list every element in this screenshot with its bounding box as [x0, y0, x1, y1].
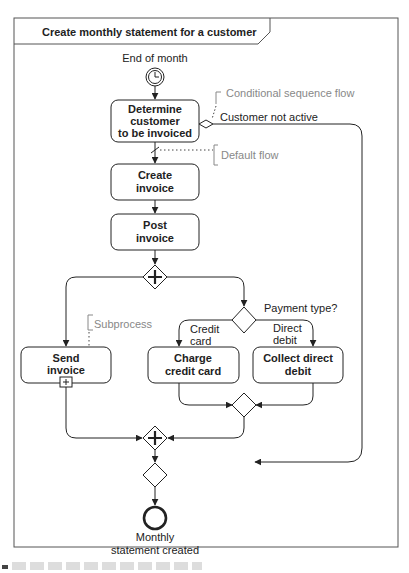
timer-clock-icon — [146, 68, 164, 86]
svg-text:Send: Send — [53, 352, 80, 364]
bpmn-diagram: Create monthly statement for a customer … — [0, 0, 409, 573]
end-event-label-2: statement created — [111, 544, 199, 556]
annotation-conditional: Conditional sequence flow — [226, 87, 354, 99]
end-event-label: Monthly — [136, 531, 175, 543]
customer-not-active-label: Customer not active — [220, 111, 318, 123]
credit-card-flow-label: Credit — [190, 323, 219, 335]
exclusive-gateway-payment-type[interactable] — [232, 307, 256, 333]
task-charge-credit-card[interactable]: Charge credit card — [148, 347, 239, 383]
figure-caption-illegible — [12, 562, 202, 570]
svg-text:Charge: Charge — [174, 352, 212, 364]
end-event[interactable] — [144, 507, 166, 529]
svg-text:invoice: invoice — [136, 182, 174, 194]
svg-text:invoice: invoice — [47, 364, 85, 376]
svg-text:customer: customer — [130, 115, 180, 127]
svg-text:Create: Create — [138, 169, 172, 181]
svg-text:invoice: invoice — [136, 232, 174, 244]
subprocess-send-invoice[interactable]: Send invoice — [21, 347, 111, 387]
svg-text:Determine: Determine — [128, 103, 182, 115]
svg-text:Collect direct: Collect direct — [263, 352, 333, 364]
conditional-flow-diamond — [199, 120, 213, 128]
start-event-label: End of month — [122, 52, 187, 64]
parallel-gateway-split[interactable] — [143, 265, 167, 289]
direct-debit-flow-label: Direct — [273, 322, 302, 334]
svg-text:to be invoiced: to be invoiced — [118, 127, 192, 139]
exclusive-gateway-merge[interactable] — [143, 463, 167, 487]
caption-marker — [2, 565, 8, 569]
task-create-invoice[interactable]: Create invoice — [111, 164, 199, 200]
parallel-gateway-join[interactable] — [143, 426, 167, 450]
diagram-title: Create monthly statement for a customer — [42, 26, 257, 38]
annotation-default: Default flow — [221, 149, 279, 161]
task-determine-customer[interactable]: Determine customer to be invoiced — [111, 100, 199, 142]
annotation-subprocess: Subprocess — [94, 318, 153, 330]
conditional-sequence-flow — [213, 124, 362, 462]
direct-debit-flow-label-2: debit — [273, 334, 297, 346]
exclusive-gateway-join[interactable] — [232, 393, 256, 417]
task-collect-direct-debit[interactable]: Collect direct debit — [253, 347, 343, 383]
task-post-invoice[interactable]: Post invoice — [111, 214, 199, 250]
svg-text:debit: debit — [285, 365, 312, 377]
svg-text:credit card: credit card — [165, 365, 221, 377]
credit-card-flow-label-2: card — [190, 335, 211, 347]
payment-type-label: Payment type? — [264, 302, 337, 314]
svg-text:Post: Post — [143, 219, 167, 231]
